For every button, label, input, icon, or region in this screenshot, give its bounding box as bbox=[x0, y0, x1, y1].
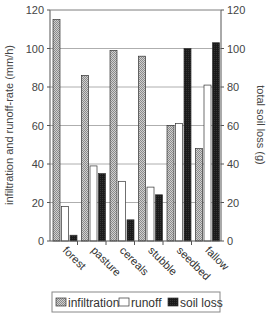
y-tick-label: 80 bbox=[32, 81, 44, 93]
legend-label-infiltration: infiltration bbox=[68, 296, 119, 310]
bar-soil-loss-forest bbox=[70, 235, 77, 241]
bar-soil-loss-stubble bbox=[156, 195, 163, 241]
bar-infiltration-fallow bbox=[196, 149, 203, 241]
bar-soil-loss-fallow bbox=[213, 43, 220, 241]
bar-infiltration-cereals bbox=[110, 50, 117, 241]
y2-tick-label: 80 bbox=[227, 81, 239, 93]
category-label-forest: forest bbox=[61, 244, 89, 272]
y-tick-label: 100 bbox=[26, 43, 44, 55]
bar-runoff-seedbed bbox=[176, 124, 183, 241]
legend-label-runoff: runoff bbox=[131, 296, 162, 310]
bar-infiltration-forest bbox=[53, 20, 60, 241]
category-label-stubble: stubble bbox=[146, 244, 180, 278]
y-tick-label: 0 bbox=[38, 235, 44, 247]
y2-axis-title: total soil loss (g) bbox=[255, 85, 267, 164]
y2-tick-label: 100 bbox=[227, 43, 245, 55]
bar-soil-loss-pasture bbox=[99, 174, 106, 241]
bar-runoff-forest bbox=[62, 206, 69, 241]
bar-chart: 020406080100120020406080100120forestpast… bbox=[0, 0, 270, 325]
bar-soil-loss-seedbed bbox=[184, 49, 191, 242]
bar-runoff-pasture bbox=[90, 166, 97, 241]
y2-tick-label: 60 bbox=[227, 120, 239, 132]
bars-group bbox=[53, 20, 220, 241]
bar-infiltration-pasture bbox=[82, 75, 89, 241]
bar-infiltration-stubble bbox=[139, 56, 146, 241]
bar-soil-loss-cereals bbox=[127, 220, 134, 241]
y2-tick-label: 40 bbox=[227, 158, 239, 170]
legend-swatch-runoff bbox=[119, 298, 129, 306]
legend-swatch-infiltration bbox=[56, 298, 66, 306]
legend-swatch-soil-loss bbox=[168, 298, 178, 306]
y-tick-label: 120 bbox=[26, 4, 44, 16]
y-axis-title: infiltration and runoff-rate (mm/h) bbox=[3, 45, 15, 205]
bar-runoff-fallow bbox=[204, 85, 211, 241]
legend: infiltrationrunoffsoil loss bbox=[52, 292, 223, 312]
y-tick-label: 40 bbox=[32, 158, 44, 170]
legend-label-soil-loss: soil loss bbox=[180, 296, 223, 310]
y-tick-label: 20 bbox=[32, 197, 44, 209]
bar-runoff-stubble bbox=[147, 187, 154, 241]
y2-tick-label: 20 bbox=[227, 197, 239, 209]
y2-tick-label: 0 bbox=[227, 235, 233, 247]
category-label-pasture: pasture bbox=[89, 244, 123, 278]
bar-infiltration-seedbed bbox=[167, 126, 174, 242]
bar-runoff-cereals bbox=[119, 181, 126, 241]
category-label-cereals: cereals bbox=[118, 244, 152, 278]
y2-tick-label: 120 bbox=[227, 4, 245, 16]
y-tick-label: 60 bbox=[32, 120, 44, 132]
